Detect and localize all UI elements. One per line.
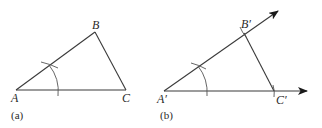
- angle-arc-a: [49, 65, 58, 96]
- figure-b: A′ B′ C′ (b): [156, 11, 307, 122]
- side-bc-prime: [244, 33, 274, 91]
- vertex-label-b-prime: B′: [241, 17, 251, 31]
- side-bc: [95, 32, 126, 90]
- ray-ab-prime: [164, 11, 278, 91]
- vertex-label-b: B: [92, 18, 100, 32]
- caption-a: (a): [11, 109, 24, 122]
- vertex-label-c-prime: C′: [276, 93, 287, 107]
- vertex-label-a: A: [10, 91, 19, 105]
- vertex-label-a-prime: A′: [156, 92, 167, 106]
- triangle-construction-diagram: A B C (a) A′ B′ C′ (b): [0, 0, 322, 128]
- side-ab: [16, 32, 95, 90]
- vertex-label-c: C: [122, 91, 131, 105]
- caption-b: (b): [160, 109, 173, 122]
- figure-a: A B C (a): [10, 18, 131, 122]
